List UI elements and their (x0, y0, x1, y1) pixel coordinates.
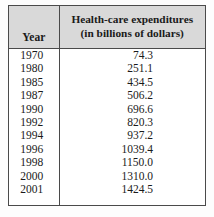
table-row: 1980251.1 (9, 62, 205, 75)
cell-expenditure-value: 1150.0 (59, 156, 205, 169)
table-row: 197074.3 (9, 49, 205, 63)
cell-year: 2000 (9, 170, 59, 183)
cell-year: 1996 (9, 143, 59, 156)
cell-year: 1992 (9, 116, 59, 129)
cell-year: 1987 (9, 89, 59, 102)
table-row: 20001310.0 (9, 170, 205, 183)
cell-expenditure-value: 251.1 (59, 62, 205, 75)
cell-expenditure-value: 1310.0 (59, 170, 205, 183)
table-row: 19961039.4 (9, 143, 205, 156)
cell-year: 1994 (9, 129, 59, 142)
table-row: 1985434.5 (9, 76, 205, 89)
cell-expenditure-value: 1039.4 (59, 143, 205, 156)
table-header-row: Year Health-care expenditures (in billio… (9, 6, 205, 49)
column-header-expenditures: Health-care expenditures (in billions of… (59, 6, 205, 49)
table-row: 19981150.0 (9, 156, 205, 169)
table-row: 1990696.6 (9, 103, 205, 116)
health-care-expenditures-table-container: Year Health-care expenditures (in billio… (8, 5, 206, 206)
cell-year: 1985 (9, 76, 59, 89)
table-header: Year Health-care expenditures (in billio… (9, 6, 205, 49)
cell-expenditure-value: 506.2 (59, 89, 205, 102)
cell-expenditure-value: 434.5 (59, 76, 205, 89)
column-header-year: Year (9, 6, 59, 49)
cell-expenditure-value: 696.6 (59, 103, 205, 116)
cell-expenditure-value: 74.3 (59, 49, 205, 63)
filler-cell-value (59, 196, 205, 205)
table-row: 20011424.5 (9, 183, 205, 196)
cell-year: 1990 (9, 103, 59, 116)
cell-expenditure-value: 1424.5 (59, 183, 205, 196)
cell-year: 2001 (9, 183, 59, 196)
table-row: 1994937.2 (9, 129, 205, 142)
table-filler-row (9, 196, 205, 205)
cell-expenditure-value: 820.3 (59, 116, 205, 129)
table-row: 1987506.2 (9, 89, 205, 102)
column-header-expenditures-line2: (in billions of dollars) (64, 27, 202, 41)
table-row: 1992820.3 (9, 116, 205, 129)
table-body: 197074.31980251.11985434.51987506.219906… (9, 49, 205, 206)
cell-year: 1970 (9, 49, 59, 63)
filler-cell-year (9, 196, 59, 205)
cell-year: 1998 (9, 156, 59, 169)
cell-expenditure-value: 937.2 (59, 129, 205, 142)
column-header-expenditures-line1: Health-care expenditures (64, 13, 202, 27)
cell-year: 1980 (9, 62, 59, 75)
health-care-expenditures-table: Year Health-care expenditures (in billio… (9, 6, 205, 205)
